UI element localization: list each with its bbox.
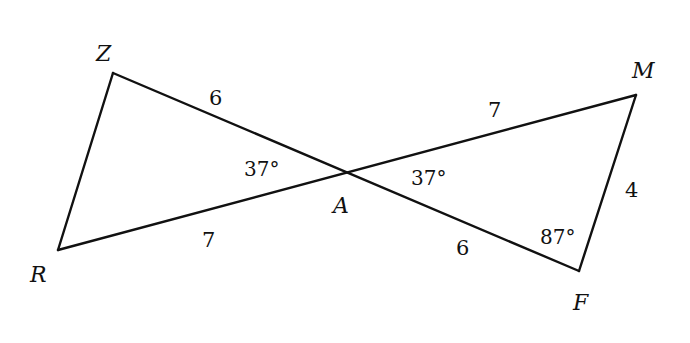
vertex-label-A: A [331,193,349,218]
angle-label-MAF: 37° [411,166,446,190]
vertex-label-F: F [572,290,589,315]
vertex-label-M: M [631,58,655,83]
triangle-diagram: Z R A M F 6 7 7 6 4 37° 37° 87° [0,0,690,343]
side-label-AM: 7 [488,98,501,122]
side-label-ZA: 6 [209,86,222,110]
angle-label-ZAR: 37° [244,157,279,181]
vertex-label-Z: Z [95,41,112,66]
angle-label-AFM: 87° [540,225,575,249]
side-label-RA: 7 [202,228,215,252]
vertex-label-R: R [29,262,47,287]
segment-ZR [58,73,113,250]
side-label-AF: 6 [456,236,469,260]
side-label-MF: 4 [625,178,638,202]
